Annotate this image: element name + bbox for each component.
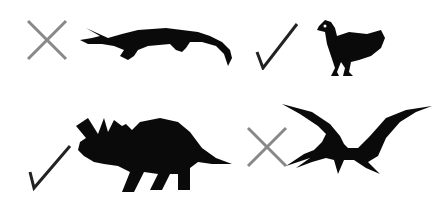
crocodile-silhouette (78, 24, 234, 70)
check-mark-triceratops (28, 144, 72, 192)
triceratops-silhouette (74, 112, 234, 194)
pterodactyl-silhouette (282, 102, 434, 184)
cross-icon (26, 19, 68, 61)
check-mark-chicken (255, 22, 299, 70)
chicken-silhouette (315, 16, 387, 78)
check-icon (255, 22, 299, 70)
pterodactyl-icon (282, 102, 434, 184)
check-icon (28, 144, 72, 192)
triceratops-icon (74, 112, 234, 194)
chicken-icon (315, 16, 387, 78)
crocodile-icon (78, 24, 234, 70)
cross-mark-crocodile (26, 19, 68, 61)
